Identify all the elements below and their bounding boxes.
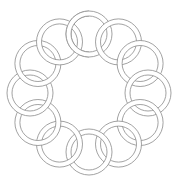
ring xyxy=(66,129,112,175)
ring xyxy=(125,70,171,116)
interlocking-rings-diagram xyxy=(0,0,177,186)
ring xyxy=(7,70,53,116)
